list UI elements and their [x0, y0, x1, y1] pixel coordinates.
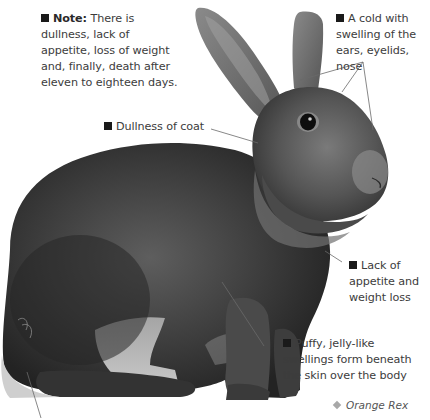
cold-line-1: A cold with	[348, 12, 409, 25]
swellings-line-1: Puffy, jelly-like	[295, 337, 374, 350]
callout-note: Note: There is dullness, lack of appetit…	[41, 11, 191, 91]
swellings-line-3: the skin over the body	[283, 368, 430, 384]
cold-line-3: ears, eyelids, nose	[336, 43, 430, 75]
appetite-line-2: appetite and	[349, 274, 430, 290]
square-bullet-icon	[283, 339, 291, 347]
page: Note: There is dullness, lack of appetit…	[0, 0, 430, 420]
caption-text: Orange Rex	[346, 399, 408, 411]
callout-appetite: Lack of appetite and weight loss	[349, 258, 430, 306]
note-label: Note:	[53, 12, 87, 25]
square-bullet-icon	[336, 14, 344, 22]
square-bullet-icon	[104, 122, 112, 130]
square-bullet-icon	[41, 14, 49, 22]
cold-line-2: swelling of the	[336, 27, 430, 43]
diamond-bullet-icon	[333, 401, 341, 409]
note-line-1: There is	[90, 12, 134, 25]
square-bullet-icon	[349, 261, 357, 269]
callout-swellings: Puffy, jelly-like swellings form beneath…	[283, 336, 430, 384]
appetite-line-1: Lack of	[361, 259, 400, 272]
callout-coat: Dullness of coat	[104, 119, 214, 135]
note-line-3: appetite, loss of weight	[41, 43, 191, 59]
appetite-line-3: weight loss	[349, 290, 430, 306]
callout-cold: A cold with swelling of the ears, eyelid…	[336, 11, 430, 75]
rabbit-head	[252, 87, 388, 248]
swellings-line-2: swellings form beneath	[283, 352, 430, 368]
note-line-4: and, finally, death after	[41, 59, 191, 75]
coat-line-1: Dullness of coat	[116, 120, 204, 133]
leader-line-coat	[211, 129, 258, 143]
figure-caption: Orange Rex	[334, 399, 408, 411]
note-line-2: dullness, lack of	[41, 27, 191, 43]
note-line-5: eleven to eighteen days.	[41, 75, 191, 91]
